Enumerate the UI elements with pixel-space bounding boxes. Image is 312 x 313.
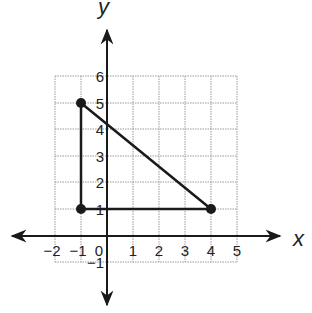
svg-text:3: 3 bbox=[96, 148, 104, 165]
svg-text:4: 4 bbox=[207, 242, 215, 259]
coordinate-plane: x y −2 −1 0 1 2 3 4 5 6 5 4 3 2 1 −1 bbox=[0, 0, 312, 313]
svg-text:6: 6 bbox=[96, 68, 104, 85]
svg-text:5: 5 bbox=[96, 95, 104, 112]
svg-text:2: 2 bbox=[155, 242, 163, 259]
svg-text:4: 4 bbox=[96, 121, 104, 138]
svg-text:−1: −1 bbox=[69, 242, 86, 259]
x-axis-label: x bbox=[292, 226, 305, 251]
vertex-point bbox=[76, 204, 86, 214]
svg-text:−1: −1 bbox=[87, 254, 104, 271]
vertex-point bbox=[206, 204, 216, 214]
svg-text:3: 3 bbox=[181, 242, 189, 259]
svg-text:1: 1 bbox=[129, 242, 137, 259]
svg-text:−2: −2 bbox=[43, 242, 60, 259]
svg-text:5: 5 bbox=[233, 242, 241, 259]
y-tick-labels: 6 5 4 3 2 1 −1 bbox=[87, 68, 104, 271]
y-axis-label: y bbox=[96, 0, 111, 19]
vertex-point bbox=[76, 98, 86, 108]
svg-text:2: 2 bbox=[96, 174, 104, 191]
x-tick-labels: −2 −1 0 1 2 3 4 5 bbox=[43, 242, 241, 259]
